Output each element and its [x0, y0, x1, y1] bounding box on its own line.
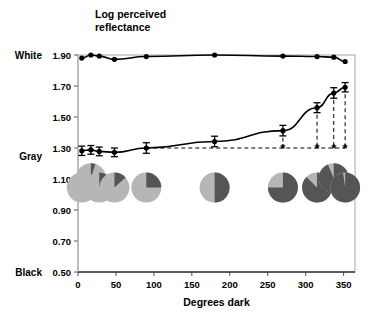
- significance-asterisk: *: [315, 141, 321, 156]
- data-point-marker: [212, 139, 217, 144]
- x-axis-tick-label: 200: [222, 279, 238, 290]
- x-axis-tick-label: 350: [336, 279, 352, 290]
- x-axis-tick-label: 0: [75, 279, 80, 290]
- x-axis-tick-label: 100: [146, 279, 162, 290]
- y-axis-tick-label: 0.70: [53, 236, 72, 247]
- plot-frame: [78, 55, 355, 272]
- y-axis-tick-label: 1.30: [53, 143, 72, 154]
- x-axis-tick-label: 250: [260, 279, 276, 290]
- anchor-label: White: [15, 50, 43, 61]
- chart-figure: 0.500.700.901.101.301.501.701.9005010015…: [0, 0, 377, 314]
- y-axis-tick-label: 0.90: [53, 205, 72, 216]
- data-point-marker: [280, 53, 285, 58]
- data-point-marker: [112, 57, 117, 62]
- pie-icon-dark-sector: [215, 173, 230, 203]
- x-axis-tick-label: 300: [298, 279, 314, 290]
- pie-icon-dark-sector: [330, 173, 360, 203]
- data-point-marker: [343, 85, 348, 90]
- data-point-marker: [97, 149, 102, 154]
- data-point-marker: [343, 59, 348, 64]
- data-point-marker: [112, 150, 117, 155]
- y-axis-tick-label: 0.50: [53, 267, 72, 278]
- data-point-marker: [280, 128, 285, 133]
- y-axis-tick-label: 1.50: [53, 112, 72, 123]
- data-point-marker: [88, 147, 93, 152]
- data-point-marker: [314, 105, 319, 110]
- x-axis-tick-label: 50: [111, 279, 122, 290]
- data-point-marker: [144, 54, 149, 59]
- significance-asterisk: *: [343, 141, 349, 156]
- data-point-marker: [79, 56, 84, 61]
- significance-asterisk: *: [280, 141, 286, 156]
- y-axis-tick-label: 1.90: [53, 50, 72, 61]
- data-point-marker: [331, 55, 336, 60]
- data-point-marker: [331, 90, 336, 95]
- pie-icon-dark-sector: [146, 173, 161, 188]
- anchor-label: Gray: [19, 151, 42, 162]
- data-point-marker: [97, 53, 102, 58]
- x-axis-label: Degrees dark: [183, 296, 250, 308]
- anchor-label: Black: [15, 267, 42, 278]
- data-point-marker: [79, 148, 84, 153]
- data-point-marker: [212, 52, 217, 57]
- chart-title-line: Log perceived: [95, 8, 166, 20]
- significance-asterisk: *: [331, 141, 337, 156]
- data-point-marker: [314, 54, 319, 59]
- data-point-marker: [88, 52, 93, 57]
- x-axis-tick-label: 150: [184, 279, 200, 290]
- chart-title-line: reflectance: [95, 21, 151, 33]
- y-axis-tick-label: 1.70: [53, 81, 72, 92]
- data-point-marker: [144, 145, 149, 150]
